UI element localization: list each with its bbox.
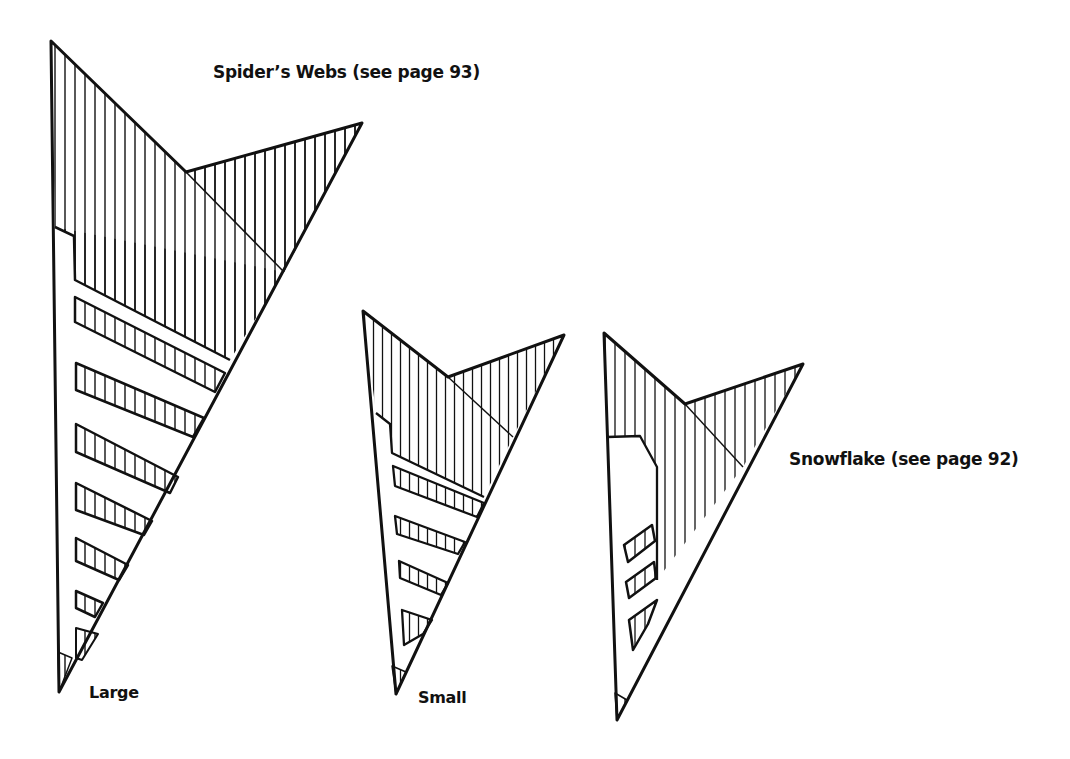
large-spider-web-template bbox=[51, 41, 362, 692]
small-spider-web-template bbox=[363, 311, 564, 694]
snowflake-template bbox=[604, 333, 803, 720]
templates-artwork bbox=[0, 0, 1070, 759]
small-label: Small bbox=[418, 688, 466, 707]
spiders-webs-title: Spider’s Webs (see page 93) bbox=[213, 62, 480, 82]
snowflake-title: Snowflake (see page 92) bbox=[789, 449, 1018, 469]
large-label: Large bbox=[89, 683, 139, 702]
